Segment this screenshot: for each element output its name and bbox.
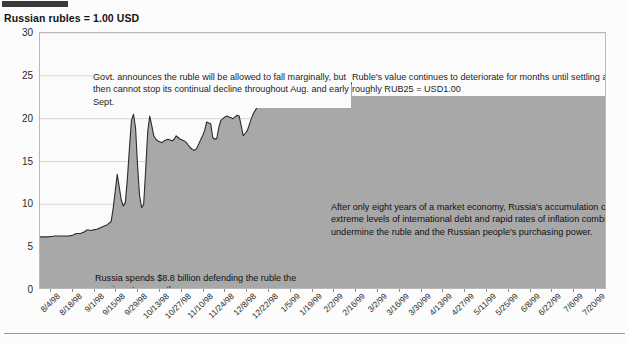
- x-tick-mark: [442, 289, 443, 292]
- x-tick-mark: [246, 289, 247, 292]
- x-tick-label: 4/27/99: [449, 291, 476, 317]
- y-tick-label: 30: [22, 27, 33, 38]
- x-tick-label: 1/19/99: [297, 291, 324, 317]
- plot-area: Govt. announces the ruble will be allowe…: [39, 32, 606, 289]
- x-tick-mark: [115, 289, 116, 292]
- x-tick-mark: [50, 289, 51, 292]
- x-tick-mark: [224, 289, 225, 292]
- x-tick-label: 8/18/98: [57, 291, 84, 317]
- title-rule: [2, 1, 68, 7]
- x-tick-mark: [72, 289, 73, 292]
- y-tick-label: 15: [22, 155, 33, 166]
- x-tick-mark: [508, 289, 509, 292]
- x-tick-mark: [312, 289, 313, 292]
- annotation-defending: Russia spends $8.8 billion defending the…: [95, 272, 320, 289]
- x-tick-mark: [268, 289, 269, 292]
- x-tick-label: 2/16/99: [340, 291, 367, 317]
- x-tick-label: 4/13/99: [428, 291, 455, 317]
- chart-page: Russian rubles = 1.00 USD 051015202530 G…: [0, 0, 629, 344]
- x-tick-mark: [181, 289, 182, 292]
- annotation-ruble-value: Ruble's value continues to deteriorate f…: [352, 71, 606, 96]
- x-tick-mark: [94, 289, 95, 292]
- x-tick-label: 3/30/99: [406, 291, 433, 317]
- y-tick-label: 25: [22, 69, 33, 80]
- x-tick-mark: [530, 289, 531, 292]
- x-tick-mark: [595, 289, 596, 292]
- x-tick-label: 9/15/98: [100, 291, 127, 317]
- y-tick-label: 20: [22, 112, 33, 123]
- x-tick-mark: [464, 289, 465, 292]
- x-tick-label: 7/20/99: [580, 291, 607, 317]
- x-tick-mark: [573, 289, 574, 292]
- annotation-market-economy: After only eight years of a market econo…: [331, 201, 606, 238]
- x-tick-mark: [355, 289, 356, 292]
- y-axis: 051015202530: [0, 32, 37, 289]
- y-tick-label: 10: [22, 198, 33, 209]
- x-tick-mark: [290, 289, 291, 292]
- x-tick-mark: [551, 289, 552, 292]
- y-tick-label: 5: [27, 241, 33, 252]
- x-tick-mark: [333, 289, 334, 292]
- x-tick-mark: [486, 289, 487, 292]
- bottom-rule: [4, 333, 625, 334]
- x-tick-label: 5/25/99: [493, 291, 520, 317]
- x-tick-label: 5/11/99: [472, 291, 498, 317]
- x-tick-mark: [399, 289, 400, 292]
- y-tick-label: 0: [27, 284, 33, 295]
- x-tick-mark: [137, 289, 138, 292]
- chart-title: Russian rubles = 1.00 USD: [4, 12, 139, 24]
- x-tick-label: 3/16/99: [384, 291, 411, 317]
- x-tick-mark: [377, 289, 378, 292]
- x-tick-label: 6/22/99: [537, 291, 564, 317]
- x-tick-mark: [203, 289, 204, 292]
- x-tick-mark: [159, 289, 160, 292]
- x-tick-mark: [421, 289, 422, 292]
- annotation-govt: Govt. announces the ruble will be allowe…: [93, 71, 351, 108]
